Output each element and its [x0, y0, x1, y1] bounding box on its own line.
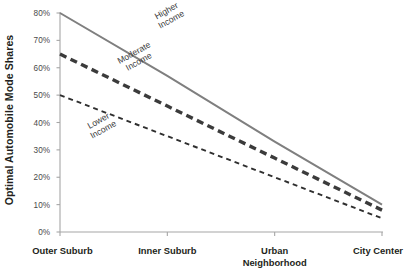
series-annotations: HigherIncomeModerateIncomeLowerIncome [0, 0, 404, 270]
series-label-moderate-income: ModerateIncome [116, 40, 157, 74]
series-label-higher-income: HigherIncome [152, 0, 186, 30]
series-label-lower-income: LowerIncome [84, 110, 118, 140]
chart-container: Optimal Automobile Mode Shares 0%10%20%3… [0, 0, 404, 270]
